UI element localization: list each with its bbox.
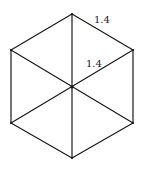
vertex-upper-left [10, 49, 12, 51]
radius-label: 1.4 [86, 58, 102, 69]
side-length-label: 1.4 [94, 14, 110, 25]
vertex-top [71, 13, 73, 15]
hexagon-diagram: 1.4 1.4 [0, 0, 146, 171]
edge-bottom-right [72, 123, 133, 158]
edge-bottom-left [11, 123, 72, 158]
vertex-lower-right [132, 122, 134, 124]
vertex-bottom [71, 157, 73, 159]
center-point [71, 86, 74, 89]
edge-top-left [11, 14, 72, 50]
vertex-upper-right [132, 49, 134, 51]
vertex-lower-left [10, 122, 12, 124]
